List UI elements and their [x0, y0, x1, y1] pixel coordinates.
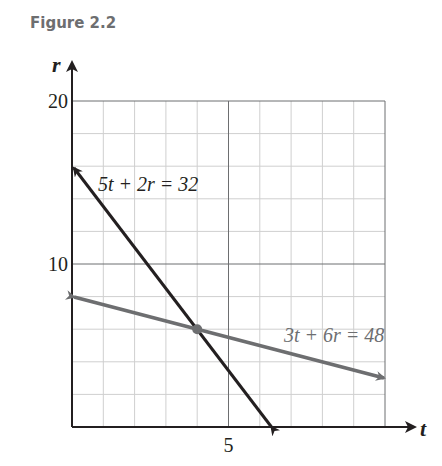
intersection-point [192, 324, 202, 334]
y-axis-label: r [52, 52, 61, 77]
x-tick-5: 5 [224, 434, 234, 456]
eq2-label: 3t + 6r = 48 [283, 324, 384, 346]
x-axis-label: t [420, 416, 427, 441]
eq1-label: 5t + 2r = 32 [98, 173, 198, 195]
y-tick-10: 10 [48, 253, 68, 275]
major-grid [72, 101, 385, 427]
chart: r t 20 10 5 5t + 2r = 32 3t + 6r = 48 [0, 0, 442, 466]
y-tick-20: 20 [48, 90, 68, 112]
